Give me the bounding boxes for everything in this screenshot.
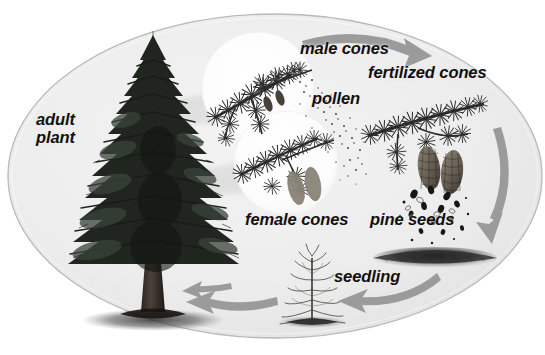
label-pollen: pollen xyxy=(312,90,360,107)
diagram-canvas xyxy=(0,0,545,355)
life-cycle-diagram: adult plant male cones fertilized cones … xyxy=(0,0,545,355)
soil-patch xyxy=(373,247,497,269)
label-male-cones: male cones xyxy=(300,40,389,57)
label-female-cones: female cones xyxy=(245,211,348,228)
inset-circle-female-cones xyxy=(234,111,338,215)
label-adult-plant-line2: plant xyxy=(36,128,75,146)
label-fertilized-cones: fertilized cones xyxy=(368,64,487,81)
partial-caption-strip xyxy=(0,347,545,355)
label-pine-seeds: pine seeds xyxy=(370,211,454,228)
label-adult-plant-line1: adult xyxy=(36,110,75,128)
label-adult-plant: adult plant xyxy=(36,110,75,147)
label-seedling: seedling xyxy=(334,268,400,285)
